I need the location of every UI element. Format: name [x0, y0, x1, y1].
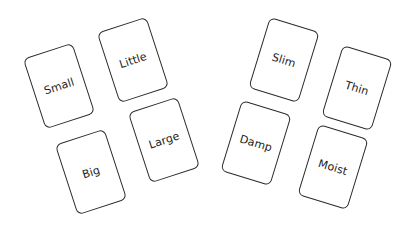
card-big[interactable]: Big	[55, 129, 127, 215]
card-label: Large	[147, 129, 181, 151]
card-label: Moist	[317, 156, 349, 177]
card-table: Small Little Big Large Slim Thin Damp Mo…	[0, 0, 418, 225]
card-moist[interactable]: Moist	[297, 124, 368, 210]
card-slim[interactable]: Slim	[248, 17, 319, 103]
card-label: Thin	[344, 78, 371, 97]
card-label: Little	[118, 49, 149, 70]
card-label: Small	[42, 75, 76, 97]
card-large[interactable]: Large	[128, 97, 200, 183]
card-label: Slim	[271, 50, 298, 70]
card-little[interactable]: Little	[97, 17, 169, 103]
card-thin[interactable]: Thin	[321, 45, 392, 131]
card-small[interactable]: Small	[23, 43, 95, 129]
card-label: Big	[80, 163, 101, 181]
card-label: Damp	[238, 132, 274, 154]
card-damp[interactable]: Damp	[220, 100, 291, 186]
